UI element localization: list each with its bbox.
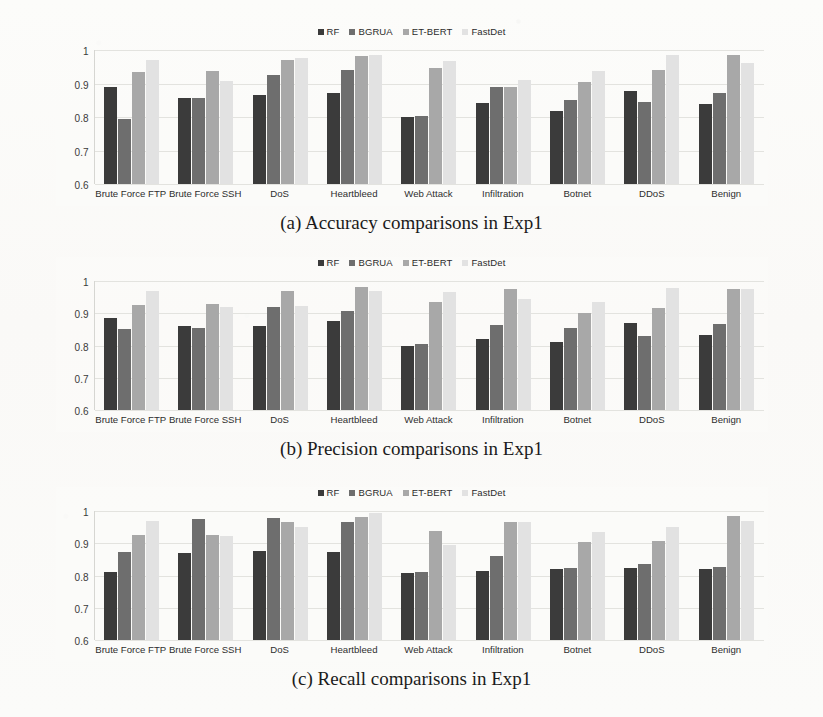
bar-bgrua bbox=[415, 344, 428, 410]
bar-rf bbox=[178, 326, 191, 410]
plot-area-precision: 10.90.80.70.6 Brute Force FTPBrute Force… bbox=[56, 257, 768, 432]
bar-bgrua bbox=[713, 567, 726, 640]
x-axis-tick-label: Heartbleed bbox=[317, 412, 391, 428]
x-axis-tick-label: Brute Force FTP bbox=[94, 186, 168, 202]
y-axis-tick-label: 0.7 bbox=[75, 146, 89, 157]
x-axis-tick-label: DDoS bbox=[615, 186, 689, 202]
bar-group bbox=[317, 281, 391, 410]
bar-fastdet bbox=[443, 545, 456, 640]
bar-bgrua bbox=[118, 329, 131, 410]
bar-group bbox=[615, 50, 689, 184]
y-axis-tick-label: 0.9 bbox=[75, 79, 89, 90]
bar-et-bert bbox=[504, 289, 517, 410]
bar-et-bert bbox=[206, 304, 219, 410]
bar-group bbox=[615, 511, 689, 640]
bar-et-bert bbox=[355, 517, 368, 640]
x-axis-tick-label: Infiltration bbox=[466, 642, 540, 658]
bar-et-bert bbox=[652, 70, 665, 184]
figure-recall: RFBGRUAET-BERTFastDet 10.90.80.70.6 Brut… bbox=[0, 487, 823, 662]
bar-fastdet bbox=[518, 80, 531, 184]
bar-rf bbox=[104, 572, 117, 640]
bar-bgrua bbox=[192, 98, 205, 184]
bar-rf bbox=[327, 552, 340, 640]
bar-group bbox=[392, 511, 466, 640]
bar-rf bbox=[104, 87, 117, 184]
bar-rf bbox=[253, 326, 266, 410]
bar-et-bert bbox=[281, 291, 294, 410]
bar-fastdet bbox=[220, 536, 233, 640]
bar-et-bert bbox=[281, 522, 294, 640]
bar-fastdet bbox=[146, 60, 159, 184]
x-axis-tick-label: Brute Force SSH bbox=[168, 412, 242, 428]
x-axis-tick-label: Heartbleed bbox=[317, 642, 391, 658]
chart-accuracy: RFBGRUAET-BERTFastDet 10.90.80.70.6 Brut… bbox=[56, 26, 768, 206]
bar-bgrua bbox=[415, 116, 428, 184]
bar-fastdet bbox=[220, 81, 233, 185]
bar-fastdet bbox=[295, 58, 308, 184]
bar-fastdet bbox=[741, 289, 754, 410]
bar-et-bert bbox=[727, 55, 740, 184]
bar-bgrua bbox=[564, 100, 577, 184]
y-axis-tick-label: 0.7 bbox=[75, 603, 89, 614]
bar-fastdet bbox=[666, 288, 679, 410]
axes-recall: 10.90.80.70.6 bbox=[94, 511, 764, 640]
y-axis-tick-label: 0.9 bbox=[75, 539, 89, 550]
bar-rf bbox=[476, 571, 489, 640]
bar-fastdet bbox=[666, 527, 679, 640]
bar-et-bert bbox=[429, 302, 442, 410]
bar-group bbox=[540, 511, 614, 640]
bar-fastdet bbox=[146, 521, 159, 640]
plot-area-accuracy: 10.90.80.70.6 Brute Force FTPBrute Force… bbox=[56, 26, 768, 206]
chart-precision: RFBGRUAET-BERTFastDet 10.90.80.70.6 Brut… bbox=[56, 257, 768, 432]
bar-et-bert bbox=[132, 305, 145, 410]
y-axis-tick-label: 0.9 bbox=[75, 309, 89, 320]
bar-rf bbox=[178, 98, 191, 184]
figure-accuracy: RFBGRUAET-BERTFastDet 10.90.80.70.6 Brut… bbox=[0, 26, 823, 206]
bar-fastdet bbox=[443, 292, 456, 410]
axes-precision: 10.90.80.70.6 bbox=[94, 281, 764, 410]
x-axis-tick-label: Web Attack bbox=[391, 186, 465, 202]
bar-rf bbox=[104, 318, 117, 410]
bar-rf bbox=[253, 95, 266, 184]
bar-bgrua bbox=[638, 564, 651, 640]
bar-group bbox=[392, 50, 466, 184]
bar-group bbox=[466, 50, 540, 184]
bar-group bbox=[689, 50, 763, 184]
bar-rf bbox=[699, 104, 712, 184]
bar-et-bert bbox=[132, 535, 145, 640]
x-axis-tick-label: Heartbleed bbox=[317, 186, 391, 202]
bar-rf bbox=[624, 323, 637, 410]
bar-fastdet bbox=[592, 71, 605, 184]
bar-fastdet bbox=[741, 63, 754, 184]
bar-group bbox=[689, 511, 763, 640]
bar-rf bbox=[550, 111, 563, 184]
bar-fastdet bbox=[146, 291, 159, 410]
bar-fastdet bbox=[592, 302, 605, 410]
bar-groups bbox=[95, 511, 764, 640]
x-axis-tick-label: Web Attack bbox=[391, 642, 465, 658]
bar-fastdet bbox=[295, 306, 308, 410]
y-gridline: 0.6 bbox=[95, 184, 764, 185]
bar-bgrua bbox=[267, 518, 280, 640]
bar-et-bert bbox=[429, 531, 442, 640]
figure-precision: RFBGRUAET-BERTFastDet 10.90.80.70.6 Brut… bbox=[0, 257, 823, 432]
bar-group bbox=[540, 281, 614, 410]
bar-rf bbox=[550, 569, 563, 640]
caption-recall: (c) Recall comparisons in Exp1 bbox=[0, 668, 823, 690]
x-axis-tick-label: Benign bbox=[689, 642, 763, 658]
bar-rf bbox=[476, 103, 489, 184]
bar-group bbox=[95, 281, 169, 410]
x-axis-tick-label: Brute Force SSH bbox=[168, 642, 242, 658]
bar-group bbox=[615, 281, 689, 410]
x-axis-tick-label: Infiltration bbox=[466, 186, 540, 202]
y-axis-tick-label: 0.6 bbox=[75, 180, 89, 191]
bar-groups bbox=[95, 50, 764, 184]
bar-et-bert bbox=[355, 287, 368, 410]
bar-bgrua bbox=[638, 102, 651, 184]
caption-precision: (b) Precision comparisons in Exp1 bbox=[0, 438, 823, 460]
bar-et-bert bbox=[355, 56, 368, 184]
x-axis-tick-label: DoS bbox=[242, 412, 316, 428]
x-axis-tick-label: Web Attack bbox=[391, 412, 465, 428]
bar-group bbox=[466, 281, 540, 410]
y-axis-tick-label: 0.8 bbox=[75, 341, 89, 352]
